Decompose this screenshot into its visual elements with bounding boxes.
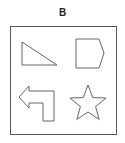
pentagon-icon (76, 39, 104, 68)
bent-arrow-icon (19, 86, 54, 121)
figure-panel (0, 0, 125, 143)
right-triangle-icon (22, 42, 57, 65)
star-icon (70, 85, 106, 119)
